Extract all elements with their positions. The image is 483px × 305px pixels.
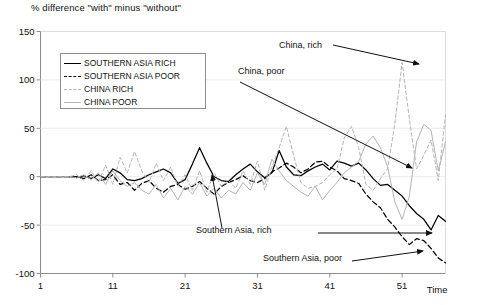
- legend-item-southern-asia-poor: SOUTHERN ASIA POOR: [61, 69, 205, 82]
- x-tick-label: 41: [324, 280, 335, 291]
- legend-item-china-rich: CHINA RICH: [61, 82, 205, 95]
- legend-item-label: SOUTHERN ASIA RICH: [84, 58, 176, 68]
- y-tick-label: -100: [15, 268, 34, 279]
- legend-item-southern-asia-rich: SOUTHERN ASIA RICH: [61, 56, 205, 69]
- chart-legend: SOUTHERN ASIA RICHSOUTHERN ASIA POORCHIN…: [60, 53, 206, 109]
- annotation-label-china-rich: China, rich: [279, 40, 322, 50]
- y-tick-label: -50: [21, 220, 35, 231]
- legend-swatch-icon: [64, 97, 81, 106]
- x-axis-label: Time: [427, 284, 448, 295]
- y-tick-label: 0: [29, 171, 34, 182]
- legend-item-label: CHINA POOR: [84, 97, 137, 107]
- arrow-southern-asia-rich-up: [212, 175, 222, 228]
- legend-swatch-icon: [64, 71, 81, 80]
- legend-swatch-icon: [64, 84, 81, 93]
- x-tick-label: 1: [38, 280, 43, 291]
- chart-figure: % difference "with" minus "without" 1501…: [0, 0, 483, 305]
- x-tick-label: 51: [397, 280, 408, 291]
- annotation-label-southern-asia-poor: Southern Asia, poor: [263, 253, 342, 263]
- annotation-label-southern-asia-rich: Southern Asia, rich: [196, 225, 272, 235]
- y-tick-label: 100: [19, 74, 35, 85]
- x-tick-label: 21: [180, 280, 191, 291]
- x-tick-label: 31: [252, 280, 263, 291]
- arrow-china-poor: [240, 82, 412, 168]
- legend-item-label: SOUTHERN ASIA POOR: [84, 71, 180, 81]
- arrow-southern-asia-poor: [352, 251, 423, 261]
- legend-swatch-icon: [64, 58, 81, 67]
- y-tick-label: 50: [24, 123, 35, 134]
- arrow-china-rich: [333, 45, 419, 64]
- annotation-label-china-poor: China, poor: [238, 66, 285, 76]
- legend-item-label: CHINA RICH: [84, 84, 133, 94]
- legend-item-china-poor: CHINA POOR: [61, 95, 205, 108]
- y-tick-label: 150: [19, 26, 35, 37]
- x-tick-label: 11: [108, 280, 118, 291]
- chart-canvas: 150100500-50-10011121314151Time China, r…: [0, 0, 483, 305]
